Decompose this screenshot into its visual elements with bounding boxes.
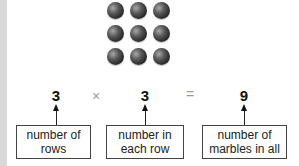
- equals-sign: =: [182, 86, 198, 102]
- factor-each-row: 3: [135, 87, 155, 104]
- arrow-shaft: [145, 110, 146, 125]
- label-line: marbles in all: [203, 142, 286, 156]
- label-line: number in: [107, 128, 183, 142]
- left-border-strip: [0, 0, 7, 166]
- label-number-in-each-row: number in each row: [106, 125, 184, 159]
- label-line: number of: [17, 128, 90, 142]
- product-total: 9: [234, 87, 254, 104]
- marble: [107, 2, 124, 19]
- label-number-of-rows: number of rows: [16, 125, 91, 159]
- times-sign: ×: [88, 88, 104, 104]
- label-line: number of: [203, 128, 286, 142]
- marble: [153, 48, 170, 65]
- factor-rows: 3: [46, 87, 66, 104]
- marble: [107, 48, 124, 65]
- marble: [130, 25, 147, 42]
- marble: [153, 2, 170, 19]
- label-line: rows: [17, 142, 90, 156]
- marble: [130, 48, 147, 65]
- arrow-shaft: [56, 110, 57, 125]
- label-line: each row: [107, 142, 183, 156]
- arrow-shaft: [244, 110, 245, 125]
- marble: [130, 2, 147, 19]
- marble: [107, 25, 124, 42]
- marble: [153, 25, 170, 42]
- label-number-of-marbles: number of marbles in all: [202, 125, 287, 159]
